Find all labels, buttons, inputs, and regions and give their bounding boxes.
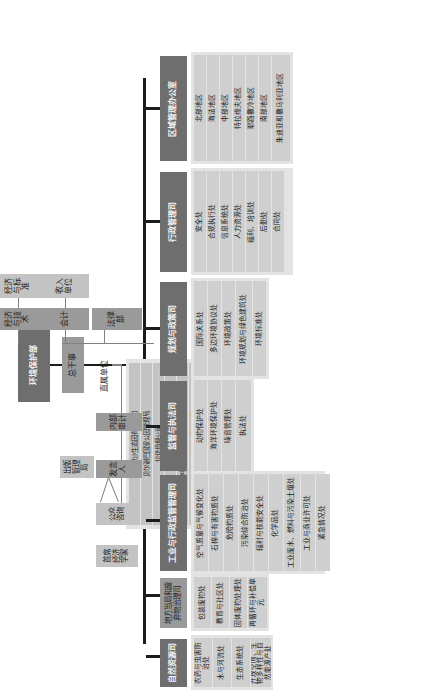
- division-drop: [146, 220, 160, 223]
- division-unit[interactable]: 海法地区: [207, 55, 219, 161]
- division-unit[interactable]: 中部地区: [220, 55, 232, 161]
- division-unit[interactable]: 南部地区: [259, 55, 271, 161]
- corporate-link-econ: [18, 298, 19, 308]
- corporate-branch-econ: [18, 330, 19, 344]
- division-unit[interactable]: 信息系统处: [220, 171, 232, 272]
- division-unit[interactable]: 工业废水、燃料与污染土壤处: [284, 474, 300, 571]
- corporate-link-accounting: [65, 298, 66, 308]
- corporate-head-legal[interactable]: 法律部: [92, 308, 142, 330]
- corporate-child-standards[interactable]: 经济与标准: [0, 274, 41, 298]
- division-unit[interactable]: 辐射与核能安全处: [254, 474, 268, 571]
- division-header[interactable]: 区域管理办公室: [160, 56, 187, 161]
- division-unit[interactable]: 再循环与补偿单元: [248, 577, 267, 628]
- root-spine: [50, 364, 62, 366]
- division-unit[interactable]: 开放空间、生物多样性与自然能源产处: [251, 638, 271, 687]
- advisor-link-a: [100, 477, 109, 502]
- division-unit[interactable]: 危险物质处: [224, 474, 238, 571]
- corporate-spine: [62, 343, 154, 344]
- division-unit[interactable]: 后勤处: [259, 171, 271, 272]
- division-unit[interactable]: 动物保护处: [194, 380, 207, 471]
- staff-item[interactable]: 贝尔谢巴国家公园管理局: [141, 363, 152, 525]
- division-unit[interactable]: 合规执行处: [207, 171, 219, 272]
- division-unit[interactable]: 污染综合防治处: [239, 474, 253, 571]
- corporate-branch-accounting: [65, 330, 66, 344]
- division-unit[interactable]: 包装废物处: [194, 577, 211, 628]
- root-title: 环境保护部: [18, 328, 50, 402]
- division-unit[interactable]: 特拉维夫地区: [233, 55, 245, 161]
- division-unit[interactable]: 执法处: [236, 380, 251, 471]
- division-unit[interactable]: 环境规划与绿色建筑处: [236, 281, 252, 376]
- division-unit[interactable]: 水与河流处: [213, 638, 231, 687]
- division-unit[interactable]: 农药与虫害防治处: [194, 638, 212, 687]
- division-unit[interactable]: 福利、培训处: [246, 171, 258, 272]
- division-drop: [146, 327, 160, 330]
- division-unit[interactable]: 环境标准处: [253, 281, 266, 376]
- division-unit[interactable]: 固体废物处理处: [230, 577, 247, 628]
- division-unit[interactable]: 朱迪亚和撒马利亚地区: [272, 55, 290, 161]
- division-header[interactable]: 自然资源司: [160, 639, 187, 687]
- staff-bus: [121, 364, 122, 524]
- division-unit[interactable]: 耶路撒冷地区: [246, 55, 258, 161]
- division-drop: [146, 425, 160, 428]
- corporate-head-econ[interactable]: 经济与技术: [0, 308, 41, 330]
- division-header[interactable]: 地方当局和废弃物治理司: [160, 578, 187, 628]
- division-unit[interactable]: 教育与社区处: [212, 577, 229, 628]
- staff-column-heading: 直属单位: [98, 360, 109, 392]
- advisor-public-consult[interactable]: 公众咨询: [96, 503, 138, 525]
- division-drop: [146, 107, 160, 110]
- corporate-child-revenue[interactable]: 收入单位: [41, 274, 89, 298]
- division-unit[interactable]: 国际关系处: [194, 281, 207, 376]
- division-unit[interactable]: 环境政策处: [222, 281, 235, 376]
- division-drop: [146, 519, 160, 522]
- advisor-spokesperson[interactable]: 发言人: [96, 460, 142, 478]
- staff-item[interactable]: 阿里穆沙生态园有限公司: [129, 363, 140, 525]
- division-unit[interactable]: 生态系统处: [232, 638, 250, 687]
- division-unit[interactable]: 安全处: [194, 171, 206, 272]
- advisor-publications[interactable]: 出版管理局: [60, 456, 94, 478]
- division-unit[interactable]: 空气质量与气候变化处: [194, 474, 208, 571]
- division-unit[interactable]: 石棉与有害物质处: [209, 474, 223, 571]
- division-unit[interactable]: 多边环境协议处: [208, 281, 221, 376]
- division-drop: [146, 655, 160, 658]
- root-deputy: 总干事: [62, 337, 84, 393]
- corporate-branch-legal: [104, 330, 105, 344]
- division-unit[interactable]: 人力资源处: [233, 171, 245, 272]
- advisor-internal-audit[interactable]: 内部审计: [96, 413, 142, 431]
- division-unit[interactable]: 合同处: [272, 171, 284, 272]
- division-unit[interactable]: 北部地区: [194, 55, 206, 161]
- division-header[interactable]: 规划与政策司: [160, 282, 187, 376]
- advisor-chief-economist[interactable]: 首席经济学家: [96, 545, 138, 567]
- corporate-head-accounting[interactable]: 会计: [41, 308, 89, 330]
- division-header[interactable]: 监管与执法司: [160, 381, 187, 471]
- division-header[interactable]: 行政管理司: [160, 172, 187, 272]
- division-unit[interactable]: 紧急情况处: [316, 474, 330, 571]
- division-unit[interactable]: 工业与商业许可处: [301, 474, 315, 571]
- advisor-link-b: [108, 478, 119, 502]
- division-unit[interactable]: 化学品处: [269, 474, 283, 571]
- division-header[interactable]: 工业与行政监管管理司: [160, 475, 187, 571]
- division-unit[interactable]: 海洋环境保护处: [208, 380, 221, 471]
- division-unit[interactable]: 噪音管理处: [222, 380, 235, 471]
- division-drop: [146, 594, 160, 597]
